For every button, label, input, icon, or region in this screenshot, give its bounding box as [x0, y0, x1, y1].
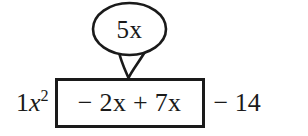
callout-value: 5x: [117, 17, 143, 42]
trailing-term: − 14: [214, 90, 261, 116]
leading-exponent: 2: [41, 87, 49, 104]
leading-term: 1x2: [16, 90, 49, 116]
figure-canvas: 5x 1x2 − 2x + 7x − 14: [0, 0, 308, 136]
equation-row: 1x2 − 2x + 7x − 14: [0, 78, 308, 128]
trailing-value: 14: [235, 88, 261, 117]
grouped-terms-text: − 2x + 7x: [78, 90, 182, 116]
leading-variable: x: [29, 88, 41, 117]
leading-coefficient: 1: [16, 88, 29, 117]
grouped-terms-box: − 2x + 7x: [55, 78, 205, 128]
callout-text: 5x: [93, 3, 166, 55]
trailing-sign: −: [214, 88, 229, 117]
